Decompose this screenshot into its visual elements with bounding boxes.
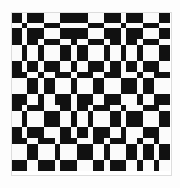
pattern-cell [60,45,71,56]
pattern-cell [159,45,170,56]
checkerboard-pattern [11,12,172,176]
pattern-cell [11,45,22,56]
pattern-cell [60,12,71,23]
pattern-cell [93,160,104,171]
pattern-cell [27,127,38,138]
pattern-cell [11,144,22,155]
pattern-cell [126,45,137,56]
pattern-cell [126,144,137,155]
pattern-cell [143,12,154,23]
pattern-cell [159,12,170,23]
pattern-cell [60,28,71,39]
pattern-cell [93,61,104,72]
pattern-cell [77,28,88,39]
pattern-cell [159,111,170,122]
pattern-cell [126,127,137,138]
pattern-cell [77,160,88,171]
pattern-cell [11,127,22,138]
pattern-cell [44,45,55,56]
figure-canvas [0,0,180,188]
pattern-cell [77,45,88,56]
pattern-cell [77,111,88,122]
pattern-cell [44,160,55,171]
pattern-cell [110,127,121,138]
pattern-cell [60,94,71,105]
pattern-cell [110,144,121,155]
pattern-cell [27,61,38,72]
pattern-cell [143,111,154,122]
pattern-cell [159,28,170,39]
pattern-cell [27,45,38,56]
pattern-cell [110,78,121,89]
pattern-cell [159,144,170,155]
pattern-cell [11,78,22,89]
pattern-cell [126,160,137,171]
pattern-cell [126,61,137,72]
pattern-cell [143,61,154,72]
pattern-cell [60,144,71,155]
pattern-cell [126,111,137,122]
pattern-cell [110,61,121,72]
pattern-cell [11,61,22,72]
pattern-cell [143,28,154,39]
pattern-cell [77,12,88,23]
pattern-cell [110,12,121,23]
pattern-cell [44,12,55,23]
pattern-cell [93,144,104,155]
pattern-cell [93,78,104,89]
pattern-cell [93,127,104,138]
pattern-cell [44,94,55,105]
pattern-cell [60,78,71,89]
pattern-cell [143,94,154,105]
pattern-cell [60,127,71,138]
pattern-cell [143,127,154,138]
pattern-cell [11,160,22,171]
pattern-cell [159,94,170,105]
pattern-cell [44,78,55,89]
pattern-cell [143,144,154,155]
pattern-cell [159,160,170,171]
pattern-cell [143,45,154,56]
pattern-cell [143,78,154,89]
pattern-cell [27,94,38,105]
pattern-cell [77,94,88,105]
pattern-cell [11,12,22,23]
pattern-cell [77,61,88,72]
pattern-cell [126,12,137,23]
pattern-cell [126,94,137,105]
pattern-cell [44,61,55,72]
pattern-cell [44,127,55,138]
pattern-cell [159,61,170,72]
pattern-cell [93,111,104,122]
pattern-cell [27,28,38,39]
pattern-cell [11,111,22,122]
pattern-cell [126,28,137,39]
pattern-cell [159,127,170,138]
pattern-grid [11,12,172,176]
pattern-cell [44,28,55,39]
pattern-cell [110,94,121,105]
pattern-cell [60,61,71,72]
pattern-cell [60,160,71,171]
pattern-cell [60,111,71,122]
pattern-cell [77,127,88,138]
pattern-cell [11,94,22,105]
pattern-cell [110,160,121,171]
pattern-cell [27,78,38,89]
pattern-cell [110,111,121,122]
pattern-cell [77,78,88,89]
pattern-cell [27,160,38,171]
pattern-cell [44,144,55,155]
pattern-cell [110,28,121,39]
pattern-cell [93,94,104,105]
pattern-cell [159,78,170,89]
pattern-cell [93,28,104,39]
pattern-cell [110,45,121,56]
pattern-cell [93,45,104,56]
pattern-cell [27,144,38,155]
pattern-cell [27,111,38,122]
pattern-cell [93,12,104,23]
pattern-cell [126,78,137,89]
pattern-cell [44,111,55,122]
pattern-cell [11,28,22,39]
